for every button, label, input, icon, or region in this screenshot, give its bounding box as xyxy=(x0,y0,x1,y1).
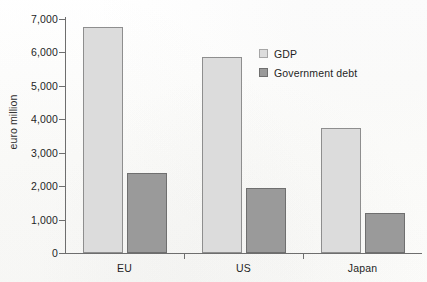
bar-us-gdp xyxy=(202,57,242,253)
y-tick-label: 4,000 xyxy=(14,113,58,125)
bar-eu-government-debt xyxy=(127,173,167,253)
y-tick-label: 3,000 xyxy=(14,147,58,159)
x-tick-mark xyxy=(184,254,185,259)
y-tick-label: 0 xyxy=(14,247,58,259)
x-category-label-us: US xyxy=(199,262,289,274)
bar-japan-gdp xyxy=(321,128,361,253)
bar-us-government-debt xyxy=(246,188,286,253)
x-category-label-eu: EU xyxy=(80,262,170,274)
y-tick-label: 2,000 xyxy=(14,180,58,192)
legend-swatch-government-debt xyxy=(259,68,268,77)
legend-label-government-debt: Government debt xyxy=(274,67,357,79)
legend-item-gdp: GDP xyxy=(259,45,357,62)
legend-label-gdp: GDP xyxy=(274,48,297,60)
chart-legend: GDP Government debt xyxy=(259,45,357,83)
y-tick-label: 1,000 xyxy=(14,214,58,226)
y-tick-mark xyxy=(59,253,65,254)
chart-figure: euro million 01,0002,0003,0004,0005,0006… xyxy=(0,0,427,282)
y-tick-label: 6,000 xyxy=(14,46,58,58)
bar-japan-government-debt xyxy=(365,213,405,253)
legend-item-government-debt: Government debt xyxy=(259,64,357,81)
legend-swatch-gdp xyxy=(259,49,268,58)
plot-area xyxy=(65,17,422,253)
x-axis-line xyxy=(65,253,422,254)
x-category-label-japan: Japan xyxy=(318,262,408,274)
bar-eu-gdp xyxy=(83,27,123,253)
y-axis-tick-labels: 01,0002,0003,0004,0005,0006,0007,000 xyxy=(14,0,58,282)
x-tick-mark xyxy=(303,254,304,259)
y-tick-label: 5,000 xyxy=(14,80,58,92)
y-tick-label: 7,000 xyxy=(14,13,58,25)
